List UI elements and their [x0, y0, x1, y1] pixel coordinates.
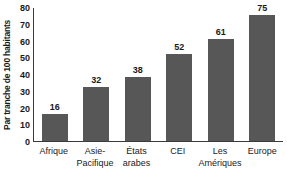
y-axis-tick-labels: 01020304050607080 [14, 8, 32, 142]
x-axis-category-labels: AfriqueAsie-PacifiqueÉtatsarabesCEILesAm… [33, 145, 283, 183]
bar-value-label: 52 [159, 43, 201, 52]
y-axis-tick-label: 30 [20, 87, 30, 96]
bar-chart-figure: Par tranche de 100 habitants 01020304050… [0, 0, 287, 183]
x-axis-category-label: LesAmériques [199, 145, 242, 183]
bar [166, 54, 192, 141]
x-axis-category-label: CEI [157, 145, 198, 183]
x-axis-category-label-line1: Asie- [85, 146, 106, 156]
y-axis-tick-label: 0 [25, 138, 30, 147]
x-axis-category-label-line1: Afrique [39, 146, 68, 156]
x-axis-category-label: Étatsarabes [116, 145, 157, 183]
bar-value-label: 38 [117, 66, 159, 75]
y-axis-title-text: Par tranche de 100 habitants [2, 20, 12, 130]
bar [249, 15, 275, 141]
y-axis-tick-label: 20 [20, 104, 30, 113]
bar-value-label: 61 [200, 28, 242, 37]
bar [208, 39, 234, 141]
bar-group: 32 [76, 8, 118, 141]
y-axis-tick-label: 40 [20, 71, 30, 80]
bar-group: 75 [242, 8, 284, 141]
bar-group: 52 [159, 8, 201, 141]
bar-group: 61 [200, 8, 242, 141]
x-axis-category-label-line2: arabes [116, 157, 157, 169]
y-axis-title: Par tranche de 100 habitants [0, 0, 14, 150]
bars-container: 163238526175 [34, 8, 283, 141]
plot-area: 163238526175 [33, 8, 283, 142]
x-axis-category-label-line2: Amériques [199, 157, 242, 169]
bar-value-label: 75 [242, 4, 284, 13]
x-axis-category-label-line1: États [126, 146, 147, 156]
x-axis-category-label-line1: Europe [248, 146, 277, 156]
bar [125, 77, 151, 141]
bar [42, 114, 68, 141]
y-axis-tick-label: 70 [20, 20, 30, 29]
bar [83, 87, 109, 141]
x-axis-category-label: Afrique [33, 145, 74, 183]
bar-group: 38 [117, 8, 159, 141]
bar-group: 16 [34, 8, 76, 141]
bar-value-label: 32 [76, 76, 118, 85]
x-axis-category-label-line1: Les [213, 146, 228, 156]
bar-value-label: 16 [34, 103, 76, 112]
y-axis-tick-label: 60 [20, 37, 30, 46]
x-axis-category-label: Europe [242, 145, 283, 183]
y-axis-tick-label: 80 [20, 4, 30, 13]
x-axis-category-label-line1: CEI [170, 146, 185, 156]
y-axis-tick-label: 50 [20, 54, 30, 63]
x-axis-category-label: Asie-Pacifique [74, 145, 115, 183]
x-axis-category-label-line2: Pacifique [74, 157, 115, 169]
y-axis-tick-label: 10 [20, 121, 30, 130]
